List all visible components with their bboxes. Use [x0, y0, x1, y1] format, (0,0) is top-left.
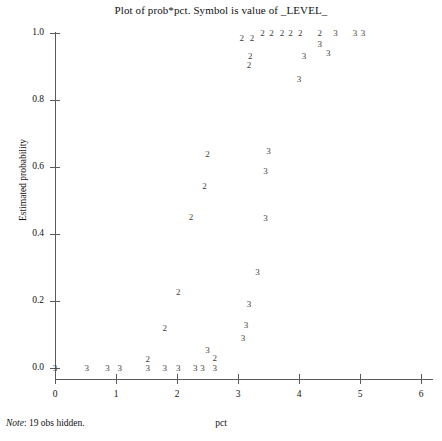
- data-point-symbol: 2: [173, 287, 183, 297]
- data-point-symbol: 2: [186, 212, 196, 222]
- footnote: Note: 19 obs hidden.: [6, 418, 85, 428]
- data-point-symbol: 3: [260, 166, 270, 176]
- data-point-symbol: 2: [295, 28, 305, 38]
- footnote-prefix: Note: [6, 418, 24, 428]
- data-point-symbol: 3: [160, 363, 170, 373]
- data-point-symbol: 3: [241, 320, 251, 330]
- data-point-symbol: 2: [210, 353, 220, 363]
- data-point-symbol: 2: [247, 33, 257, 43]
- data-point-symbol: 3: [82, 363, 92, 373]
- data-point-symbol: 3: [260, 213, 270, 223]
- data-point-symbol: 2: [285, 28, 295, 38]
- scatter-plot-figure: Plot of prob*pct. Symbol is value of _LE…: [0, 0, 442, 441]
- data-point-symbol: 3: [238, 333, 248, 343]
- data-point-symbol: 2: [160, 323, 170, 333]
- data-point-symbol: 2: [203, 149, 213, 159]
- data-point-symbol: 3: [50, 363, 60, 373]
- footnote-text: 19 obs hidden.: [29, 418, 85, 428]
- data-point-symbol: 2: [315, 28, 325, 38]
- data-point-symbol: 3: [323, 48, 333, 58]
- data-point-symbol: 3: [198, 363, 208, 373]
- data-point-symbol: 2: [267, 28, 277, 38]
- data-point-symbol: 3: [253, 267, 263, 277]
- data-point-symbol: 3: [331, 28, 341, 38]
- data-point-symbol: 3: [264, 146, 274, 156]
- data-point-symbol: 2: [199, 181, 209, 191]
- data-point-symbol: 3: [102, 363, 112, 373]
- data-point-symbol: 3: [358, 28, 368, 38]
- data-point-symbol: 3: [210, 363, 220, 373]
- data-point-symbol: 3: [299, 51, 309, 61]
- data-point-symbol: 3: [173, 363, 183, 373]
- data-points-layer: 2222222333322233332322332323323233333333…: [0, 0, 442, 441]
- data-point-symbol: 3: [244, 299, 254, 309]
- data-point-symbol: 2: [237, 33, 247, 43]
- data-point-symbol: 2: [244, 60, 254, 70]
- data-point-symbol: 3: [143, 363, 153, 373]
- data-point-symbol: 3: [294, 74, 304, 84]
- data-point-symbol: 3: [115, 363, 125, 373]
